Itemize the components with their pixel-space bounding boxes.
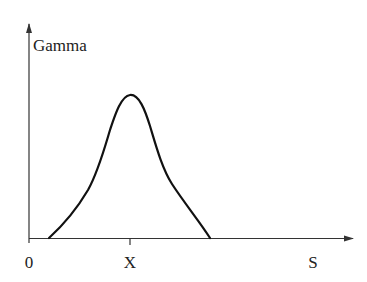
- gamma-curve: [49, 95, 210, 238]
- origin-label: 0: [25, 253, 34, 272]
- x-tick-label: X: [124, 253, 136, 272]
- y-axis-label: Gamma: [33, 36, 87, 55]
- x-axis-label: S: [308, 253, 317, 272]
- gamma-diagram: Gamma 0 X S: [0, 0, 367, 282]
